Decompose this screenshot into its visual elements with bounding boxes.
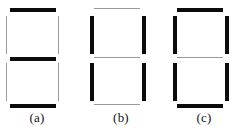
segment-bottom-right (58, 63, 59, 101)
segment-top-left (6, 16, 7, 54)
segment-top-right (58, 16, 59, 54)
panel-caption-c: (c) (167, 110, 241, 126)
segment-top-right (142, 16, 146, 54)
segment-bottom-left (173, 63, 177, 101)
segment-top-left (90, 16, 94, 54)
segment-bottom-left (90, 63, 94, 101)
seven-segment-figure: (a) (b) (c) (0, 0, 252, 132)
segment-top-left (173, 16, 177, 54)
segment-middle (94, 57, 140, 58)
segment-bottom-right (225, 63, 229, 101)
segment-top (177, 8, 223, 12)
segment-top-right (225, 16, 229, 54)
segment-bottom (94, 104, 140, 105)
segment-bottom-left (6, 63, 7, 101)
panel-caption-a: (a) (0, 110, 74, 126)
segment-bottom-right (142, 63, 146, 101)
segment-top (94, 8, 140, 9)
segment-canvas-c (167, 0, 241, 112)
segment-top (10, 8, 56, 12)
segment-middle (10, 57, 56, 61)
segment-bottom (10, 104, 56, 108)
segment-canvas-b (84, 0, 158, 112)
digit-panel-b: (b) (84, 0, 158, 132)
digit-panel-c: (c) (167, 0, 241, 132)
segment-middle (177, 57, 223, 58)
segment-bottom (177, 104, 223, 108)
panel-caption-b: (b) (84, 110, 158, 126)
digit-panel-a: (a) (0, 0, 74, 132)
segment-canvas-a (0, 0, 74, 112)
